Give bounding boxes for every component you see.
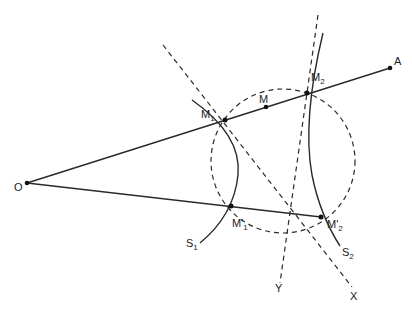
label-s2: S2 xyxy=(342,246,354,261)
point-m1 xyxy=(223,118,228,123)
label-m1: M1 xyxy=(201,108,215,123)
ray-om2p xyxy=(27,183,321,217)
label-m2-prime: M'2 xyxy=(327,218,343,233)
label-a: A xyxy=(394,55,402,67)
point-m xyxy=(264,105,269,110)
label-y: Y xyxy=(275,282,283,294)
label-x: X xyxy=(350,290,358,302)
ray-oa xyxy=(27,68,390,183)
label-m: M xyxy=(259,93,268,105)
label-s1: S1 xyxy=(186,237,198,252)
point-m1-prime xyxy=(229,204,234,209)
dashed-line-y xyxy=(280,15,318,283)
point-a xyxy=(388,66,393,71)
label-o: O xyxy=(14,181,23,193)
label-m1-prime: M'1 xyxy=(232,217,248,232)
curve-s2 xyxy=(309,33,340,246)
dashed-circle xyxy=(211,89,355,233)
point-m2-prime xyxy=(319,215,324,220)
point-o xyxy=(25,181,30,186)
geometry-diagram: O A M M1 M2 M'1 M'2 S1 S2 X Y xyxy=(0,0,412,310)
point-m2 xyxy=(305,91,310,96)
